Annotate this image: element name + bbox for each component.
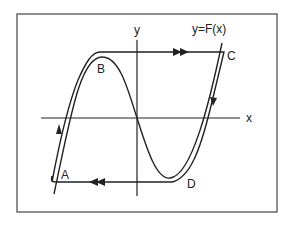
curve-label: y=F(x) — [192, 22, 226, 36]
y-axis-label: y — [134, 23, 140, 37]
point-c-label: C — [227, 49, 236, 63]
limit-cycle — [51, 52, 224, 182]
x-axis-label: x — [246, 111, 252, 125]
point-d-label: D — [187, 177, 196, 191]
phase-plane-diagram: y x y=F(x) B C A D — [0, 0, 291, 225]
point-b-label: B — [97, 62, 105, 76]
arrow-up-icon — [56, 124, 62, 134]
double-arrow-right-icon-2 — [180, 48, 189, 56]
point-a-label: A — [61, 168, 69, 182]
